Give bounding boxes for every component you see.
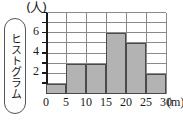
x-axis-tick-label: 30 — [160, 96, 172, 108]
y-axis-tick — [42, 12, 47, 14]
y-axis-unit-label: (人) — [26, 0, 46, 16]
histogram-figure: ヒストグラム (人) (m) 246051015202530 — [0, 0, 183, 120]
x-axis-tick-label: 5 — [63, 96, 69, 108]
histogram-bar — [66, 64, 86, 94]
y-axis-tick — [42, 82, 47, 84]
histogram-bar — [86, 64, 106, 94]
y-axis-tick — [42, 22, 47, 24]
side-label-box: ヒストグラム — [4, 18, 26, 114]
histogram-bar — [106, 33, 126, 94]
side-label-text: ヒストグラム — [10, 33, 21, 99]
y-axis-tick-label: 2 — [33, 65, 39, 77]
gridline-vertical — [166, 13, 167, 94]
histogram-bar — [146, 74, 166, 94]
y-axis-tick-label: 4 — [33, 45, 39, 57]
x-axis-tick-label: 20 — [120, 96, 132, 108]
y-axis-tick: 2 — [42, 72, 47, 74]
y-axis-tick: 4 — [42, 52, 47, 54]
x-axis-tick-label: 25 — [140, 96, 152, 108]
y-axis-tick — [42, 42, 47, 44]
x-axis-tick-label: 10 — [80, 96, 92, 108]
y-axis-tick: 6 — [42, 32, 47, 34]
y-axis-tick-label: 6 — [33, 25, 39, 37]
y-axis-tick — [42, 62, 47, 64]
plot-area: (m) 246051015202530 — [46, 13, 166, 94]
x-axis-tick-label: 0 — [43, 96, 49, 108]
histogram-bar — [126, 43, 146, 94]
histogram-bar — [46, 84, 66, 94]
x-axis-tick-label: 15 — [100, 96, 112, 108]
